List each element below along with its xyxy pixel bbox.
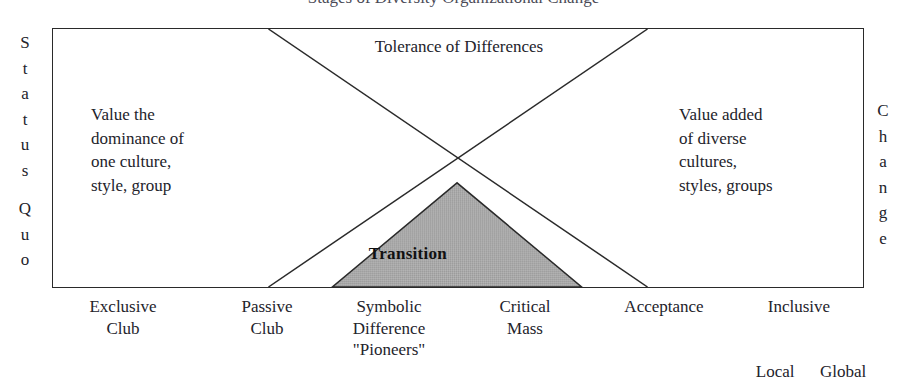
scope-label-local: Local xyxy=(756,362,795,382)
tolerance-of-differences-label: Tolerance of Differences xyxy=(53,37,865,57)
scope-label-global: Global xyxy=(820,362,866,382)
axis-char: e xyxy=(870,226,896,252)
axis-char: a xyxy=(870,149,896,175)
x-label-inclusive: Inclusive xyxy=(724,296,874,318)
x-label-symbolic-difference-pioneers: Symbolic Difference "Pioneers" xyxy=(304,296,474,361)
axis-char: s xyxy=(12,158,38,184)
axis-char: n xyxy=(870,175,896,201)
axis-word-gap xyxy=(12,183,38,196)
axis-char: C xyxy=(870,98,896,124)
scope-labels-local-global: Local Global xyxy=(716,362,906,382)
axis-char: o xyxy=(12,247,38,273)
transition-triangle xyxy=(332,183,581,287)
right-axis-label-change: C h a n g e xyxy=(870,98,896,251)
axis-char: u xyxy=(12,222,38,248)
axis-char: S xyxy=(12,30,38,56)
tolerance-text: Tolerance of Differences xyxy=(375,37,543,56)
cropped-title-text: Stages of Diversity Organizational Chang… xyxy=(0,0,907,7)
cropped-title-remnant: Stages of Diversity Organizational Chang… xyxy=(0,0,907,9)
axis-char: a xyxy=(12,81,38,107)
right-quadrant-text: Value added of diverse cultures, styles,… xyxy=(679,103,773,197)
axis-char: g xyxy=(870,200,896,226)
axis-char: t xyxy=(12,56,38,82)
axis-char: t xyxy=(12,107,38,133)
left-axis-label-status-quo: S t a t u s Q u o xyxy=(12,30,38,273)
x-label-exclusive-club: Exclusive Club xyxy=(48,296,198,339)
plot-frame: Tolerance of Differences Value the domin… xyxy=(52,28,864,288)
x-axis-stage-labels: Exclusive Club Passive Club Symbolic Dif… xyxy=(52,296,864,388)
axis-char: Q xyxy=(12,196,38,222)
axis-char: h xyxy=(870,124,896,150)
diagram-canvas: Stages of Diversity Organizational Chang… xyxy=(0,0,907,388)
transition-label: Transition xyxy=(333,244,483,264)
axis-char: u xyxy=(12,132,38,158)
left-quadrant-text: Value the dominance of one culture, styl… xyxy=(91,103,184,197)
